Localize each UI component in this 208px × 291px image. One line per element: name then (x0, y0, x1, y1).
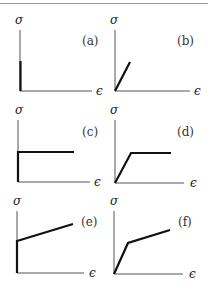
sigma-label: σ (15, 103, 24, 117)
axes (17, 211, 84, 273)
panel-label: (a) (82, 34, 99, 48)
sigma-label: σ (110, 194, 119, 208)
panel-e: σ ϵ (e) (13, 194, 97, 280)
panel-label: (b) (177, 34, 194, 48)
sigma-label: σ (110, 13, 119, 27)
sigma-label: σ (13, 194, 22, 208)
epsilon-label: ϵ (190, 176, 197, 190)
axes (114, 211, 183, 274)
sigma-label: σ (15, 13, 24, 27)
curve (115, 153, 171, 183)
epsilon-label: ϵ (189, 267, 196, 281)
curve (17, 224, 73, 273)
panel-label: (d) (177, 125, 194, 139)
epsilon-label: ϵ (89, 266, 96, 280)
axes (115, 120, 184, 183)
epsilon-label: ϵ (194, 84, 201, 98)
panel-c: σ ϵ (c) (15, 103, 101, 189)
epsilon-label: ϵ (96, 84, 103, 98)
panel-label: (e) (81, 215, 97, 229)
panel-f: σ ϵ (f) (110, 194, 196, 281)
stress-strain-diagram: σ ϵ (a) σ ϵ (b) σ ϵ (c) σ ϵ (d) σ ϵ (e) (0, 0, 208, 291)
epsilon-label: ϵ (94, 175, 101, 189)
panel-label: (c) (82, 125, 98, 139)
curve (18, 152, 74, 182)
panel-label: (f) (178, 215, 192, 229)
curve (114, 230, 170, 274)
panel-b: σ ϵ (b) (110, 13, 201, 98)
sigma-label: σ (110, 103, 119, 117)
panel-d: σ ϵ (d) (110, 103, 197, 190)
curve (115, 62, 130, 91)
panel-a: σ ϵ (a) (15, 13, 103, 98)
